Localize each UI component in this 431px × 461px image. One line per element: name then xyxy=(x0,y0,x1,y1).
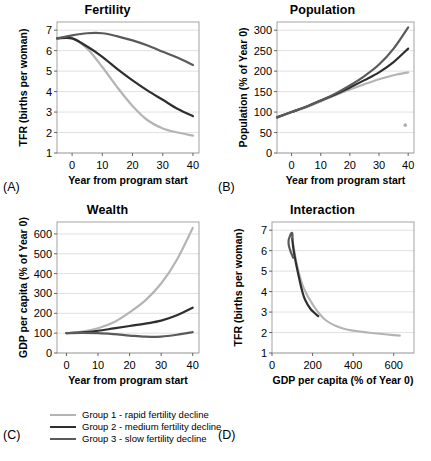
fertility-plot: 1234567010203040Year from program startT… xyxy=(0,0,215,200)
svg-text:GDP per capita (% of Year 0): GDP per capita (% of Year 0) xyxy=(17,217,29,358)
legend-line-swatch-group3 xyxy=(50,438,76,440)
panel-letter-c: (C) xyxy=(3,428,20,442)
svg-text:TFR (births per woman): TFR (births per woman) xyxy=(232,229,244,347)
svg-text:0: 0 xyxy=(269,359,275,371)
svg-text:2: 2 xyxy=(46,127,52,139)
svg-text:20: 20 xyxy=(123,359,135,371)
svg-text:40: 40 xyxy=(187,159,199,171)
legend-label-group1: Group 1 - rapid fertility decline xyxy=(82,409,209,420)
svg-text:600: 600 xyxy=(34,228,52,240)
svg-text:30: 30 xyxy=(155,359,167,371)
svg-text:30: 30 xyxy=(157,159,169,171)
legend-label-group2: Group 2 - medium fertility decline xyxy=(82,421,221,432)
legend-label-group3: Group 3 - slow fertility decline xyxy=(82,433,207,444)
svg-text:30: 30 xyxy=(373,159,385,171)
panel-wealth: Wealth 0100200300400500600010203040Year … xyxy=(0,200,215,400)
svg-text:6: 6 xyxy=(46,45,52,57)
panel-letter-a: (A) xyxy=(3,180,20,194)
legend-item: Group 2 - medium fertility decline xyxy=(50,421,300,432)
svg-text:250: 250 xyxy=(254,45,272,57)
svg-text:1: 1 xyxy=(261,347,267,359)
svg-text:1: 1 xyxy=(46,147,52,159)
svg-text:3: 3 xyxy=(46,106,52,118)
svg-text:5: 5 xyxy=(261,265,267,277)
svg-text:6: 6 xyxy=(261,245,267,257)
svg-text:400: 400 xyxy=(34,268,52,280)
svg-text:0: 0 xyxy=(289,159,295,171)
svg-text:Year from program start: Year from program start xyxy=(286,174,406,186)
svg-text:50: 50 xyxy=(260,127,272,139)
svg-text:4: 4 xyxy=(261,286,267,298)
panel-letter-b: (B) xyxy=(218,180,235,194)
svg-text:0: 0 xyxy=(63,359,69,371)
svg-text:150: 150 xyxy=(254,86,272,98)
svg-text:40: 40 xyxy=(402,159,414,171)
svg-text:500: 500 xyxy=(34,248,52,260)
svg-text:Year from program start: Year from program start xyxy=(68,374,188,386)
svg-text:10: 10 xyxy=(96,159,108,171)
legend-line-swatch-group1 xyxy=(50,414,76,416)
svg-text:5: 5 xyxy=(46,65,52,77)
svg-text:600: 600 xyxy=(385,359,403,371)
svg-text:7: 7 xyxy=(261,224,267,236)
svg-text:200: 200 xyxy=(34,307,52,319)
svg-text:4: 4 xyxy=(46,86,52,98)
legend-item: Group 1 - rapid fertility decline xyxy=(50,409,300,420)
legend-item: Group 3 - slow fertility decline xyxy=(50,433,300,444)
svg-text:20: 20 xyxy=(126,159,138,171)
svg-text:400: 400 xyxy=(344,359,362,371)
svg-text:Population (% of Year 0): Population (% of Year 0) xyxy=(237,28,249,148)
svg-text:200: 200 xyxy=(254,65,272,77)
figure-panel-grid: Fertility 1234567010203040Year from prog… xyxy=(0,0,431,461)
interaction-plot: 12345670200400600GDP per capita (% of Ye… xyxy=(215,200,430,400)
panel-population: Population 050100150200250300010203040Ye… xyxy=(215,0,430,200)
svg-text:2: 2 xyxy=(261,327,267,339)
figure-legend: Group 1 - rapid fertility decline Group … xyxy=(50,409,300,445)
svg-text:10: 10 xyxy=(315,159,327,171)
legend-line-swatch-group2 xyxy=(50,426,76,428)
svg-text:GDP per capita (% of Year 0): GDP per capita (% of Year 0) xyxy=(273,374,414,386)
svg-text:300: 300 xyxy=(254,24,272,36)
svg-text:300: 300 xyxy=(34,287,52,299)
svg-text:TFR (births per woman): TFR (births per woman) xyxy=(17,29,29,147)
svg-text:40: 40 xyxy=(187,359,199,371)
population-plot: 050100150200250300010203040Year from pro… xyxy=(215,0,430,200)
svg-text:0: 0 xyxy=(266,147,272,159)
svg-text:100: 100 xyxy=(254,106,272,118)
panel-interaction: Interaction 12345670200400600GDP per cap… xyxy=(215,200,430,400)
svg-text:0: 0 xyxy=(69,159,75,171)
svg-text:10: 10 xyxy=(92,359,104,371)
svg-text:Year from program start: Year from program start xyxy=(68,174,188,186)
svg-text:3: 3 xyxy=(261,306,267,318)
svg-text:7: 7 xyxy=(46,24,52,36)
svg-text:200: 200 xyxy=(303,359,321,371)
wealth-plot: 0100200300400500600010203040Year from pr… xyxy=(0,200,215,400)
svg-text:20: 20 xyxy=(344,159,356,171)
svg-text:0: 0 xyxy=(46,347,52,359)
panel-fertility: Fertility 1234567010203040Year from prog… xyxy=(0,0,215,200)
svg-text:100: 100 xyxy=(34,327,52,339)
